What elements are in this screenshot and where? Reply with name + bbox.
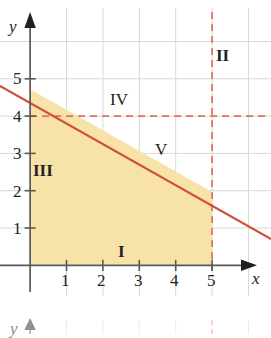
x-axis-label: x: [252, 270, 260, 287]
region-label-v: V: [155, 141, 167, 158]
y-tick-label-4: 4: [13, 108, 22, 125]
y-axis-label: y: [9, 18, 17, 35]
x-tick-label-3: 3: [134, 272, 143, 289]
y-tick-label-5: 5: [13, 70, 22, 87]
region-label-iv: IV: [110, 91, 128, 108]
second-figure-partial: [24, 318, 248, 334]
x-tick-label-5: 5: [207, 272, 216, 289]
y-tick-label-3: 3: [13, 145, 22, 162]
region-label-ii: II: [216, 47, 229, 64]
x-tick-label-4: 4: [170, 272, 179, 289]
region-label-iii: III: [33, 162, 53, 179]
x-tick-label-2: 2: [97, 272, 106, 289]
second-figure-y-axis-label: y: [10, 320, 18, 337]
y-tick-label-2: 2: [13, 183, 22, 200]
y-tick-label-1: 1: [13, 220, 22, 237]
x-tick-label-1: 1: [61, 272, 70, 289]
y-axis-arrowhead: [24, 12, 35, 28]
region-label-i: I: [118, 243, 125, 260]
